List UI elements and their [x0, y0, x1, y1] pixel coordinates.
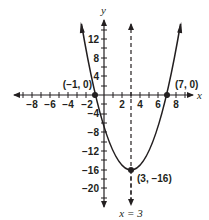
x-tick-label: −6 [44, 99, 56, 110]
x-axis: −8 −6 −4 −2 2 4 6 8 x [14, 89, 202, 110]
root-point-right [164, 92, 170, 98]
x-tick-label: 8 [173, 99, 179, 110]
root-left-label: (−1, 0) [63, 79, 92, 90]
x-tick-label: −4 [62, 99, 74, 110]
x-axis-label: x [196, 89, 202, 101]
y-tick-label: −16 [82, 165, 99, 176]
y-tick-label: −20 [82, 183, 99, 194]
x-tick-label: −8 [26, 99, 38, 110]
root-right-label: (7, 0) [175, 79, 198, 90]
y-tick-label: −4 [88, 108, 100, 119]
x-tick-label: 4 [137, 99, 143, 110]
vertex-point [128, 167, 134, 173]
root-point-left [92, 92, 98, 98]
parabola-graph: −8 −6 −4 −2 2 4 6 8 x 12 8 4 −4 −8 −12 − [0, 0, 209, 220]
x-tick-label: 6 [155, 99, 161, 110]
y-axis-label: y [100, 4, 106, 16]
y-tick-label: −12 [82, 146, 99, 157]
y-tick-label: −8 [88, 127, 100, 138]
x-tick-label: 2 [119, 99, 125, 110]
vertex-label: (3, −16) [137, 173, 172, 184]
symmetry-label: x = 3 [118, 207, 143, 219]
y-tick-label: 12 [88, 34, 100, 45]
y-tick-label: 4 [93, 71, 99, 82]
y-tick-label: 8 [93, 53, 99, 64]
